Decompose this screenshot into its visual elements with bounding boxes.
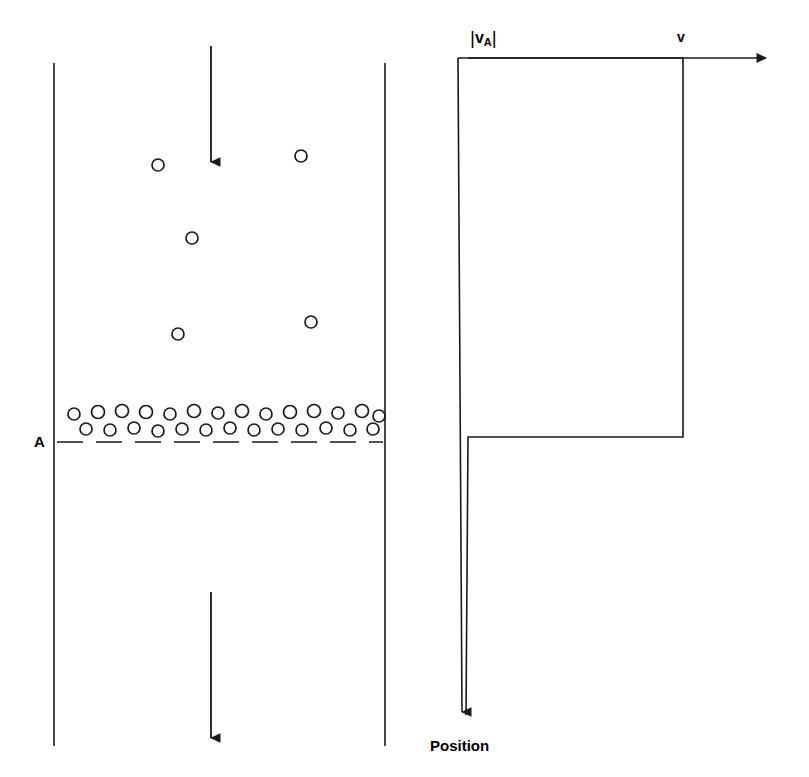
figure-canvas bbox=[0, 0, 809, 777]
y-axis-subscript: A bbox=[484, 36, 492, 48]
bubble bbox=[272, 423, 284, 435]
bubble bbox=[212, 407, 224, 419]
figure-root: A |vA| v Position bbox=[0, 0, 809, 777]
bubble bbox=[356, 405, 369, 418]
bubble bbox=[186, 232, 198, 244]
bubble bbox=[305, 316, 317, 328]
bubble bbox=[200, 424, 212, 436]
bubble bbox=[188, 405, 201, 418]
bubble bbox=[92, 406, 105, 419]
bubble bbox=[332, 407, 344, 419]
section-a-label: A bbox=[34, 434, 45, 449]
bubble bbox=[152, 159, 164, 171]
bubble bbox=[128, 422, 140, 434]
velocity-step-curve bbox=[466, 58, 683, 715]
bubble bbox=[80, 423, 92, 435]
bubble bbox=[260, 408, 272, 420]
y-axis-symbol: v bbox=[475, 29, 484, 46]
bubble bbox=[296, 424, 308, 436]
bubble bbox=[224, 422, 236, 434]
bubble-band-group bbox=[68, 405, 385, 438]
bubble bbox=[236, 405, 249, 418]
bubble bbox=[140, 406, 153, 419]
velocity-label: v bbox=[677, 30, 685, 44]
bubble bbox=[373, 410, 385, 422]
bubble bbox=[320, 422, 332, 434]
abs-bar-close: | bbox=[492, 27, 497, 48]
graph-group bbox=[458, 58, 766, 715]
graph-vertical-axis bbox=[458, 58, 462, 712]
bubble bbox=[367, 423, 379, 435]
bubble bbox=[176, 423, 188, 435]
bubble bbox=[344, 424, 356, 436]
y-axis-label: |vA| bbox=[470, 28, 497, 47]
bubble bbox=[295, 150, 307, 162]
bubble bbox=[308, 405, 321, 418]
bubble bbox=[104, 424, 116, 436]
pipe-group bbox=[54, 46, 385, 746]
bubble bbox=[248, 424, 260, 436]
bubble bbox=[284, 406, 297, 419]
bubble bbox=[152, 425, 164, 437]
bubble bbox=[116, 405, 129, 418]
bubble bbox=[172, 328, 184, 340]
scattered-bubbles-group bbox=[152, 150, 317, 340]
bubble bbox=[68, 408, 80, 420]
x-axis-label: Position bbox=[430, 738, 489, 753]
bubble bbox=[164, 408, 176, 420]
